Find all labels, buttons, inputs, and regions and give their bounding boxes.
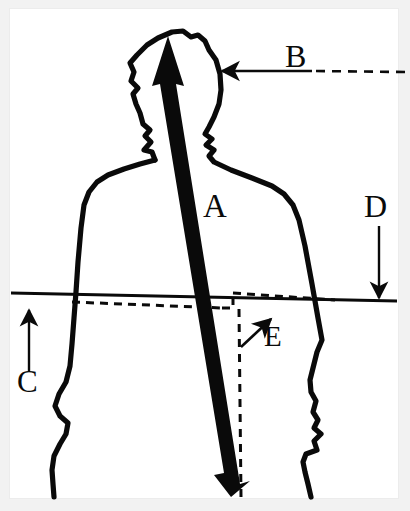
dashed-vertical-drop-line [239, 309, 241, 497]
annotation-label-e: E [264, 322, 282, 351]
figure-canvas [0, 0, 410, 511]
annotation-a-arrow [152, 36, 250, 497]
annotation-label-a: A [203, 190, 227, 223]
dashed-step-riser [222, 293, 233, 308]
figure-root: A B C D E [0, 0, 410, 511]
annotation-b-arrow [222, 71, 405, 72]
annotation-label-d: D [364, 190, 387, 222]
annotation-label-b: B [285, 40, 306, 72]
annotation-label-c: C [17, 366, 38, 397]
annotation-b-dashed-segment [312, 71, 405, 72]
human-silhouette [52, 31, 322, 497]
